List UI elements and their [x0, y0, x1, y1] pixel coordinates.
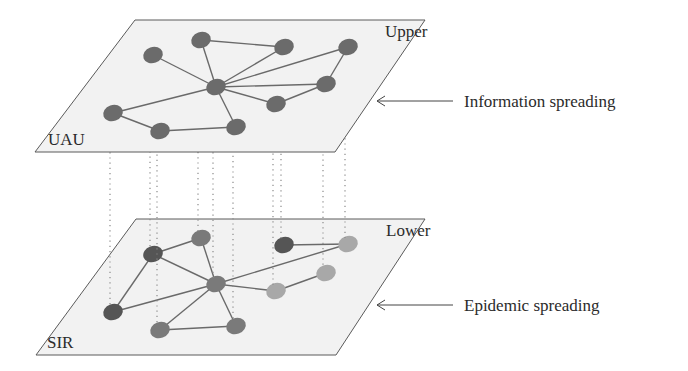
epidemic-annotation: Epidemic spreading — [377, 296, 600, 315]
upper-layer: Upper UAU — [35, 20, 428, 152]
information-spreading-label: Information spreading — [464, 92, 616, 111]
upper-layer-label: Upper — [385, 22, 428, 41]
epidemic-spreading-label: Epidemic spreading — [464, 296, 600, 315]
uau-model-label: UAU — [48, 130, 85, 149]
multiplex-network-diagram: Lower SIR Upper UAU Information spreadin… — [0, 0, 688, 371]
information-annotation: Information spreading — [377, 92, 616, 111]
sir-model-label: SIR — [47, 333, 74, 352]
lower-plane — [36, 219, 425, 355]
lower-layer-label: Lower — [386, 221, 431, 240]
